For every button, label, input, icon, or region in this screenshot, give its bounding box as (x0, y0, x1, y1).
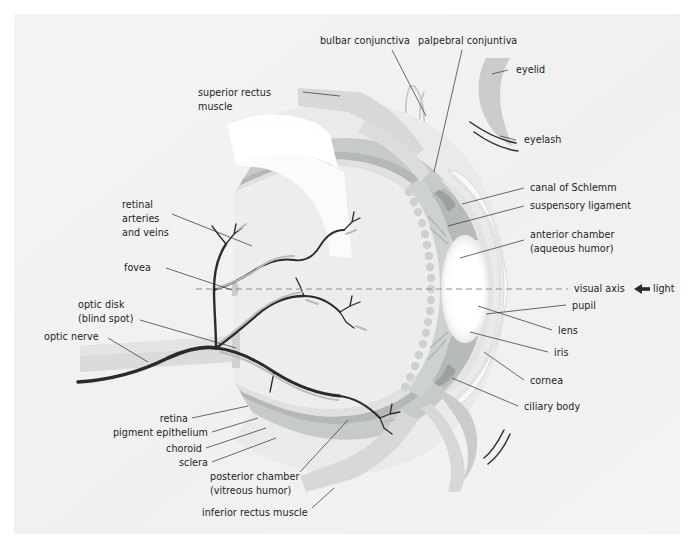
label-optic-disk-line1: optic disk (78, 299, 125, 310)
label-palpebral-conjunctiva: palpebral conjuntiva (418, 35, 517, 46)
eye-anatomy-figure: bulbar conjunctiva palpebral conjuntiva … (0, 0, 694, 548)
label-fovea: fovea (124, 262, 151, 273)
label-eyelash: eyelash (524, 134, 561, 145)
label-superior-rectus-line1: superior rectus (198, 87, 271, 98)
label-superior-rectus-line2: muscle (198, 101, 233, 112)
label-posterior-chamber-line1: posterior chamber (210, 471, 299, 482)
label-bulbar-conjunctiva: bulbar conjunctiva (320, 35, 410, 46)
label-retinal-vessels-line1: retinal (122, 199, 153, 210)
label-optic-nerve: optic nerve (44, 331, 99, 342)
optic-disk-marker (232, 332, 240, 368)
label-eyelid: eyelid (516, 64, 545, 75)
label-pupil: pupil (572, 300, 596, 311)
label-iris: iris (554, 347, 568, 358)
label-anterior-chamber-line2: (aqueous humor) (530, 243, 614, 254)
label-retinal-vessels-line3: and veins (122, 227, 169, 238)
label-optic-disk-line2: (blind spot) (78, 313, 133, 324)
label-choroid: choroid (166, 443, 202, 454)
label-anterior-chamber-line1: anterior chamber (530, 229, 614, 240)
label-posterior-chamber-line2: (vitreous humor) (210, 485, 291, 496)
label-retinal-vessels-line2: arteries (122, 213, 159, 224)
label-suspensory-ligament: suspensory ligament (530, 200, 631, 211)
eye-anatomy-diagram: bulbar conjunctiva palpebral conjuntiva … (0, 0, 694, 548)
label-pigment-epithelium: pigment epithelium (113, 427, 208, 438)
label-lens: lens (558, 325, 578, 336)
label-cornea: cornea (530, 375, 563, 386)
label-canal-of-schlemm: canal of Schlemm (530, 182, 617, 193)
label-light: light (653, 283, 675, 294)
label-sclera: sclera (179, 457, 208, 468)
label-visual-axis: visual axis (574, 283, 625, 294)
label-inferior-rectus: inferior rectus muscle (202, 507, 308, 518)
label-ciliary-body: ciliary body (524, 401, 580, 412)
label-retina: retina (160, 413, 188, 424)
